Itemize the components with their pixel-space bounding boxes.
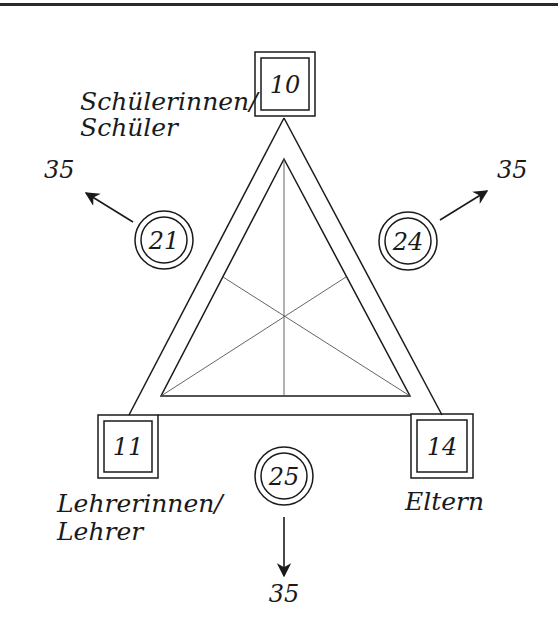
edge-right-value: 24 (392, 228, 424, 256)
arrow-right-icon (440, 191, 487, 220)
edge-circle-bottom: 25 (255, 447, 313, 505)
edge-circle-right: 24 (379, 212, 437, 270)
edge-bottom-value: 25 (268, 463, 300, 491)
vertex-box-top: 10 (255, 52, 315, 116)
edge-left-value: 21 (148, 227, 180, 255)
top-rule (0, 3, 558, 6)
label-top-line1: Schülerinnen/ (80, 87, 260, 116)
label-bottom-right: Eltern (404, 487, 484, 516)
edge-circle-left: 21 (135, 211, 193, 269)
arrow-left-icon (86, 193, 133, 222)
inner-triangle (161, 159, 410, 396)
vertex-box-bottom-right: 14 (411, 414, 473, 478)
edge-left-target: 35 (44, 156, 75, 184)
vertex-bottom-left-value: 11 (113, 433, 144, 461)
edge-right-target: 35 (497, 156, 528, 184)
edge-bottom-target: 35 (269, 580, 300, 608)
vertex-bottom-right-value: 14 (427, 433, 458, 461)
label-bottom-left-line1: Lehrerinnen/ (56, 489, 225, 518)
vertex-box-bottom-left: 11 (98, 415, 158, 478)
label-bottom-left-line2: Lehrer (56, 517, 145, 546)
vertex-top-value: 10 (270, 71, 301, 99)
triangle-diagram: 10 11 14 Schülerinnen/ Schüler Lehrerinn… (0, 0, 558, 630)
label-top-line2: Schüler (80, 113, 180, 142)
